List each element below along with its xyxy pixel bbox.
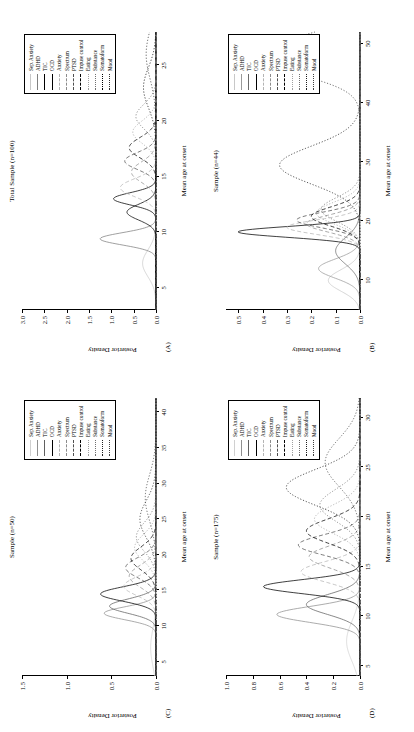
legend-line-swatch [95, 74, 96, 90]
legend-line-swatch [80, 440, 81, 456]
legend-label: Sep. Anxiety [232, 410, 238, 437]
legend-line-swatch [284, 74, 285, 90]
legend-label: Mood [311, 59, 317, 71]
legend-item: Sep. Anxiety [231, 38, 238, 90]
legend-line-swatch [66, 74, 67, 90]
density-curve [125, 32, 156, 310]
legend-item: Eating [289, 404, 296, 456]
legend-label: Somatoform [99, 411, 105, 437]
legend-line-swatch [263, 440, 264, 456]
legend-label: Somatoform [99, 45, 105, 71]
legend-item: ADHD [238, 38, 245, 90]
chart-panel-a: (A)Total Sample (n=100)Mean age at onset… [8, 16, 204, 356]
legend: Sep. AnxietyADHDTICOCDAnxietySpectrumPTS… [24, 400, 116, 460]
legend-line-swatch [80, 74, 81, 90]
legend-item: Eating [85, 404, 92, 456]
legend-item: Mood [106, 38, 113, 90]
density-curve [135, 398, 156, 676]
legend-line-swatch [102, 440, 103, 456]
legend-item: Mood [106, 404, 113, 456]
legend-item: PTSD [70, 38, 77, 90]
legend-item: Substance [296, 38, 303, 90]
legend-label: PTSD [275, 58, 281, 71]
legend-line-swatch [109, 74, 110, 90]
legend-item: Somatoform [303, 38, 310, 90]
legend-item: ADHD [34, 38, 41, 90]
legend-label: ADHD [35, 56, 41, 71]
legend: Sep. AnxietyADHDTICOCDAnxietySpectrumPTS… [228, 400, 320, 460]
legend-line-swatch [234, 440, 235, 456]
legend-item: Sep. Anxiety [27, 404, 34, 456]
legend-item: OCD [49, 404, 56, 456]
density-curve [328, 32, 360, 310]
chart-panel-b: (B)Sample (n=44)Mean age at onsetPosteri… [212, 16, 408, 356]
legend-label: Impuse control [78, 40, 84, 71]
legend-item: PTSD [274, 38, 281, 90]
legend-label: Sep. Anxiety [28, 410, 34, 437]
legend-item: TIC [245, 404, 252, 456]
legend-label: OCD [49, 60, 55, 71]
legend-label: TIC [246, 63, 252, 71]
legend-line-swatch [256, 440, 257, 456]
legend-item: Anxiety [56, 38, 63, 90]
legend: Sep. AnxietyADHDTICOCDAnxietySpectrumPTS… [228, 34, 320, 94]
legend-line-swatch [270, 440, 271, 456]
legend-line-swatch [277, 74, 278, 90]
legend-item: Mood [310, 404, 317, 456]
legend-line-swatch [102, 74, 103, 90]
figure-page: (A)Total Sample (n=100)Mean age at onset… [0, 0, 414, 732]
legend-item: OCD [49, 38, 56, 90]
legend-label: ADHD [239, 56, 245, 71]
legend-item: TIC [41, 404, 48, 456]
legend-line-swatch [292, 74, 293, 90]
legend-line-swatch [277, 440, 278, 456]
legend-item: Impuse control [77, 404, 84, 456]
legend-item: Spectrum [267, 38, 274, 90]
legend-line-swatch [73, 440, 74, 456]
legend-label: Mood [107, 425, 113, 437]
legend-line-swatch [248, 74, 249, 90]
legend-line-swatch [248, 440, 249, 456]
legend-item: Anxiety [260, 404, 267, 456]
legend-label: PTSD [275, 424, 281, 437]
legend-item: Somatoform [99, 38, 106, 90]
legend-label: Sep. Anxiety [28, 44, 34, 71]
legend-item: Spectrum [63, 404, 70, 456]
legend-label: TIC [246, 429, 252, 437]
legend-line-swatch [30, 440, 31, 456]
legend-line-swatch [44, 440, 45, 456]
legend-label: Spectrum [268, 51, 274, 71]
legend-label: Impuse control [282, 406, 288, 437]
density-curve [136, 398, 156, 676]
density-curve [110, 398, 156, 676]
legend-label: Impuse control [78, 406, 84, 437]
legend-item: Substance [296, 404, 303, 456]
legend-item: Spectrum [63, 38, 70, 90]
legend-line-swatch [292, 440, 293, 456]
legend-label: Mood [107, 59, 113, 71]
legend-label: Eating [85, 57, 91, 71]
legend-label: OCD [253, 60, 259, 71]
legend-label: Anxiety [260, 420, 266, 437]
legend-line-swatch [59, 74, 60, 90]
legend-line-swatch [313, 74, 314, 90]
legend-label: Substance [92, 416, 98, 437]
legend-label: Sep. Anxiety [232, 44, 238, 71]
legend-line-swatch [88, 74, 89, 90]
legend-label: Mood [311, 425, 317, 437]
legend-item: Mood [310, 38, 317, 90]
legend-item: Somatoform [303, 404, 310, 456]
chart-panel-d: (D)Sample (n=175)Mean age at onsetPoster… [212, 382, 408, 722]
legend-line-swatch [52, 74, 53, 90]
legend-line-swatch [256, 74, 257, 90]
chart-panel-c: (C)Sample (n=50)Mean age at onsetPosteri… [8, 382, 204, 722]
legend-item: Sep. Anxiety [231, 404, 238, 456]
legend-line-swatch [241, 74, 242, 90]
legend-item: Substance [92, 404, 99, 456]
legend-item: Eating [289, 38, 296, 90]
legend-line-swatch [95, 440, 96, 456]
legend-line-swatch [241, 440, 242, 456]
legend-line-swatch [234, 74, 235, 90]
legend-line-swatch [59, 440, 60, 456]
legend-line-swatch [44, 74, 45, 90]
